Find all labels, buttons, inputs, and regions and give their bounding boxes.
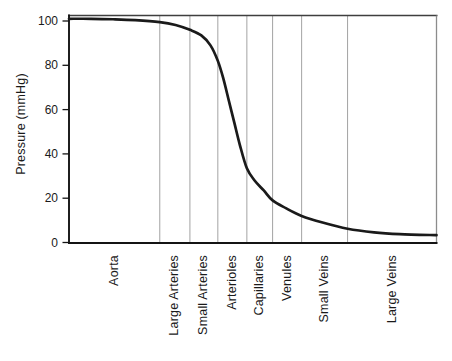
y-tick-label: 40: [16, 147, 58, 161]
y-tick-label: 0: [16, 236, 58, 250]
x-category-label: Venules: [280, 255, 295, 301]
x-category-label: Capillaries: [252, 255, 267, 316]
x-category-label: Large Arteries: [167, 255, 182, 336]
x-category-label: Small Arteries: [196, 255, 211, 335]
x-category-label: Aorta: [107, 255, 122, 286]
pressure-chart: Pressure (mmHg) 020406080100 AortaLarge …: [0, 0, 452, 361]
y-tick-label: 80: [16, 58, 58, 72]
y-tick-label: 100: [16, 14, 58, 28]
pressure-curve: [69, 19, 437, 235]
x-category-label: Large Veins: [385, 255, 400, 323]
x-category-label: Arterioles: [225, 255, 240, 310]
x-category-label: Small Veins: [317, 255, 332, 323]
y-tick-label: 20: [16, 191, 58, 205]
y-tick-label: 60: [16, 103, 58, 117]
